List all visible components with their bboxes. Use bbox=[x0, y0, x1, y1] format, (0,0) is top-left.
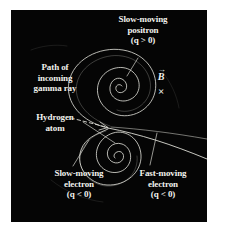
vector-arrow-icon: → bbox=[157, 67, 167, 72]
label-hydrogen-atom: Hydrogen atom bbox=[19, 112, 91, 133]
bubble-chamber-photo: Slow-moving positron (q > 0) Path of inc… bbox=[11, 10, 207, 222]
label-fast-electron-line2: electron bbox=[115, 179, 207, 190]
leader-line-positron bbox=[127, 58, 138, 76]
label-slow-electron-line1: Slow-moving bbox=[31, 168, 127, 179]
label-gamma-ray: Path of incoming gamma ray bbox=[15, 62, 95, 94]
label-positron-line2: positron bbox=[89, 25, 197, 36]
label-magnetic-field: → B × bbox=[149, 72, 173, 96]
label-fast-electron: Fast-moving electron (q < 0) bbox=[115, 168, 207, 200]
label-positron: Slow-moving positron (q > 0) bbox=[89, 14, 197, 46]
pair-production-figure: Slow-moving positron (q > 0) Path of inc… bbox=[0, 0, 225, 237]
label-slow-electron-line2: electron bbox=[31, 179, 127, 190]
label-slow-electron: Slow-moving electron (q < 0) bbox=[31, 168, 127, 200]
label-hydrogen-line1: Hydrogen bbox=[19, 112, 91, 123]
bfield-vector-symbol: → B bbox=[158, 72, 165, 83]
label-slow-electron-charge: (q < 0) bbox=[31, 189, 127, 200]
label-hydrogen-line2: atom bbox=[19, 123, 91, 134]
label-gamma-line3: gamma ray bbox=[15, 83, 95, 94]
label-positron-charge: (q > 0) bbox=[89, 35, 197, 46]
leader-line-slow-electron bbox=[73, 140, 89, 166]
leader-line-fast-electron bbox=[150, 133, 157, 165]
label-positron-line1: Slow-moving bbox=[89, 14, 197, 25]
label-gamma-line2: incoming bbox=[15, 73, 95, 84]
label-fast-electron-line1: Fast-moving bbox=[115, 168, 207, 179]
field-into-page-icon: × bbox=[149, 86, 173, 97]
label-fast-electron-charge: (q < 0) bbox=[115, 189, 207, 200]
label-gamma-line1: Path of bbox=[15, 62, 95, 73]
